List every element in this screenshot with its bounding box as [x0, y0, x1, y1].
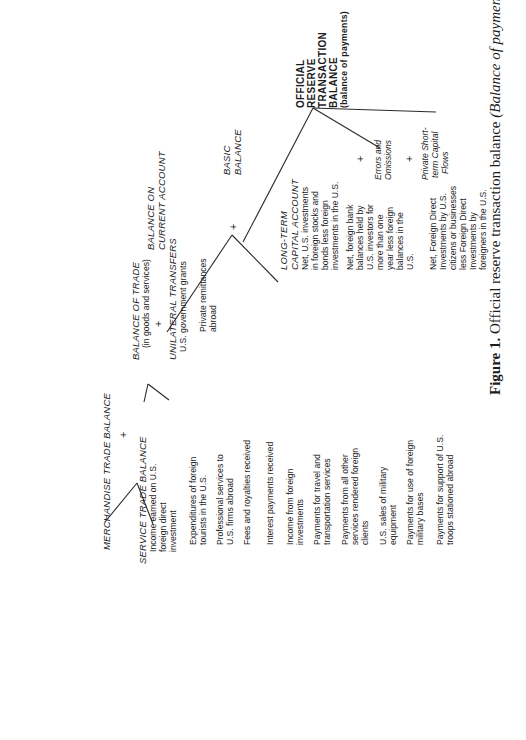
long-term-item-line: citizens or businesses [448, 186, 458, 270]
service-item-travel-transportation: Payments for travel and transportation s… [312, 454, 332, 545]
official-reserve-line-2: RESERVE [306, 11, 317, 108]
long-term-item-line: balances held by [355, 204, 365, 270]
official-reserve-line-3: TRANSACTION [317, 11, 328, 108]
service-trade-balance-node: SERVICE TRADE BALANCE [137, 436, 148, 564]
plus-longterm-errors: + [355, 156, 366, 162]
unilateral-item-private-remittances: Private remittances [198, 238, 208, 360]
long-term-item-line: balances in the [395, 204, 405, 270]
diagram-page: OFFICIAL RESERVE TRANSACTION BALANCE (ba… [0, 0, 526, 740]
unilateral-transfers-title: UNILATERAL TRANSFERS [167, 238, 178, 360]
long-term-item-line: more than one [375, 204, 385, 270]
short-term-line: Private Short- [420, 127, 430, 180]
long-term-item-line: U.S. [405, 204, 415, 270]
service-item-military-equipment: U.S. sales of military equipment [378, 467, 398, 545]
unilateral-item-gov-grants: U.S. government grants [178, 238, 188, 360]
figure-caption-text: Official reserve transaction balance [487, 118, 503, 338]
long-term-item-line: Net, Foreign Direct [428, 186, 438, 270]
service-item-line: Professional services to [215, 454, 225, 545]
official-reserve-line-1: OFFICIAL [295, 11, 306, 108]
service-item-line: investment [168, 464, 178, 552]
long-term-item-line: Investments by [468, 186, 478, 270]
service-item-professional-services: Professional services to U.S. firms abro… [215, 454, 235, 545]
service-item-interest-payments: Interest payments received [265, 442, 275, 545]
service-item-line: equipment [388, 467, 398, 545]
balance-of-trade-subtitle: (in goods and services) [141, 259, 151, 360]
service-item-line: Fees and royalties received [242, 440, 252, 545]
official-reserve-line-4: BALANCE [328, 11, 339, 108]
official-reserve-subtitle: (balance of payments) [339, 11, 349, 108]
short-term-line: term Capital [430, 127, 440, 180]
figure-caption-italic: (Balance of payments) [487, 0, 503, 118]
service-item-line: U.S. firms abroad [225, 454, 235, 545]
service-item-income-foreign-investments: Income from foreign investments [285, 469, 305, 545]
short-term-line: Flows [440, 127, 450, 180]
plus-errors-shortterm: + [404, 156, 415, 162]
current-account-line-2: CURRENT ACCOUNT [156, 151, 167, 250]
service-item-line: Income earned on U.S. [148, 464, 158, 552]
long-term-item-line: bonds less foreign [320, 182, 330, 270]
private-short-term-capital-flows-node: Private Short- term Capital Flows [420, 127, 450, 180]
unilateral-transfers-node: UNILATERAL TRANSFERS U.S. government gra… [167, 238, 218, 360]
plus-merchandise-service: + [118, 432, 129, 438]
long-term-item-line: Net, U.S. investments [300, 182, 310, 270]
long-term-item-foreign-bank-balances: Net, foreign bank balances held by U.S. … [345, 204, 415, 270]
long-term-item-line: investments in the U.S. [330, 182, 340, 270]
long-term-item-line: Investments by U.S. [438, 186, 448, 270]
service-item-fees-royalties: Fees and royalties received [242, 440, 252, 545]
basic-balance-node: BASIC BALANCE [221, 129, 243, 175]
long-term-item-foreign-direct-investments: Net, Foreign Direct Investments by U.S. … [428, 186, 488, 270]
service-item-line: Payments for travel and [312, 454, 322, 545]
official-reserve-transaction-balance-node: OFFICIAL RESERVE TRANSACTION BALANCE (ba… [295, 11, 349, 108]
service-item-line: Payments from all other [340, 448, 350, 545]
long-term-item-line: in foreign stocks and [310, 182, 320, 270]
errors-line: Errors and [373, 140, 383, 180]
figure-caption: Figure 1. Official reserve transaction b… [487, 0, 504, 395]
balance-of-trade-title: BALANCE OF TRADE [130, 259, 141, 360]
balance-on-current-account-node: BALANCE ON CURRENT ACCOUNT [145, 151, 167, 250]
long-term-item-line: year less foreign [385, 204, 395, 270]
service-item-line: clients [360, 448, 370, 545]
service-item-line: U.S. sales of military [378, 467, 388, 545]
figure-label: Figure 1. [487, 338, 503, 395]
service-item-other-services: Payments from all other services rendere… [340, 448, 370, 545]
plus-trade-transfers: + [153, 321, 164, 327]
long-term-title-line-2: CAPITAL ACCOUNT [289, 179, 300, 270]
plus-current-longterm: + [228, 224, 239, 230]
omissions-line: Omissions [383, 140, 393, 180]
service-item-line: Payments for use of foreign [405, 440, 415, 545]
errors-and-omissions-node: Errors and Omissions [373, 140, 393, 180]
basic-balance-line-1: BASIC [221, 129, 232, 175]
service-item-line: troops stationed abroad [445, 435, 455, 545]
tree-connector-lines [0, 0, 526, 740]
service-item-foreign-military-bases: Payments for use of foreign military bas… [405, 440, 425, 545]
unilateral-item-abroad: abroad [208, 238, 218, 360]
long-term-capital-account-node: LONG-TERM CAPITAL ACCOUNT [278, 179, 300, 270]
service-item-tourist-expenditures: Expenditures of foreign tourists in the … [188, 457, 208, 545]
service-item-line: Expenditures of foreign [188, 457, 198, 545]
long-term-item-line: Net, foreign bank [345, 204, 355, 270]
service-item-line: Payments for support of U.S. [435, 435, 445, 545]
basic-balance-line-2: BALANCE [232, 129, 243, 175]
service-item-income-earned: Income earned on U.S. foreign direct inv… [148, 464, 178, 552]
service-item-line: transportation services [322, 454, 332, 545]
service-item-troops-abroad: Payments for support of U.S. troops stat… [435, 435, 455, 545]
long-term-item-line: less Foreign Direct [458, 186, 468, 270]
service-item-line: foreign direct [158, 464, 168, 552]
service-item-line: services rendered foreign [350, 448, 360, 545]
long-term-title-line-1: LONG-TERM [278, 179, 289, 270]
service-item-line: investments [295, 469, 305, 545]
long-term-item-line: U.S. investors for [365, 204, 375, 270]
merchandise-trade-balance-node: MERCHANDISE TRADE BALANCE [101, 393, 112, 550]
service-item-line: Income from foreign [285, 469, 295, 545]
long-term-item-us-investments: Net, U.S. investments in foreign stocks … [300, 182, 340, 270]
service-item-line: Interest payments received [265, 442, 275, 545]
service-trade-balance-title: SERVICE TRADE BALANCE [137, 436, 148, 564]
balance-of-trade-node: BALANCE OF TRADE (in goods and services) [130, 259, 151, 360]
current-account-line-1: BALANCE ON [145, 151, 156, 250]
service-item-line: military bases [415, 440, 425, 545]
service-item-line: tourists in the U.S. [198, 457, 208, 545]
